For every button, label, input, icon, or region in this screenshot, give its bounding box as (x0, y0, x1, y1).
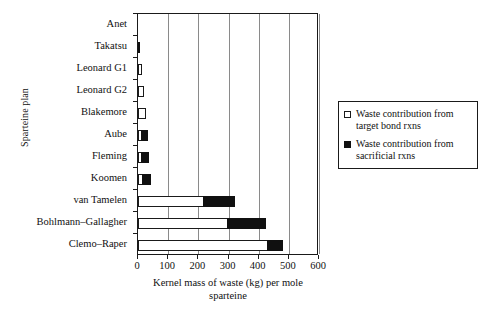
stacked-bar (138, 64, 142, 75)
x-axis-tick (258, 255, 259, 259)
x-axis-tick (167, 255, 168, 259)
bar-row (138, 174, 317, 185)
x-axis-tick (318, 255, 319, 259)
stacked-bar (138, 196, 235, 207)
x-axis-tick-label: 600 (298, 260, 338, 271)
bar-segment-target-bond (138, 64, 142, 75)
open-square-icon (344, 111, 351, 118)
x-axis-tick (288, 255, 289, 259)
stacked-bar (138, 240, 283, 251)
y-axis-tick-label: Aube (104, 129, 127, 140)
bar-segment-target-bond (138, 240, 267, 251)
x-axis-tick (137, 255, 138, 259)
plot-area (137, 13, 318, 255)
legend-label-target-bond: Waste contribution from target bond rxns (356, 108, 471, 132)
bar-row (138, 240, 317, 251)
bar-row (138, 64, 317, 75)
y-axis-tick-label: Leonard G1 (77, 63, 127, 74)
y-axis-tick-label: Leonard G2 (77, 85, 127, 96)
stacked-bar (138, 130, 148, 141)
y-axis-tick-label: Koomen (91, 173, 127, 184)
bar-segment-target-bond (138, 218, 227, 229)
x-axis-tick (197, 255, 198, 259)
legend-entry-sacrificial: Waste contribution from sacrificial rxns (344, 138, 471, 162)
stacked-bar (138, 174, 151, 185)
stacked-bar (138, 218, 266, 229)
bar-segment-sacrificial (141, 152, 149, 163)
bar-row (138, 20, 317, 31)
y-axis-tick-label: Fleming (92, 151, 127, 162)
y-axis-tick-label: Takatsu (94, 41, 127, 52)
legend-entry-target-bond: Waste contribution from target bond rxns (344, 108, 471, 132)
stacked-bar (138, 152, 149, 163)
y-axis-tick-label: van Tamelen (73, 195, 127, 206)
bar-row (138, 152, 317, 163)
x-axis-title-line2: sparteine (110, 289, 346, 302)
bar-row (138, 130, 317, 141)
y-axis-tick-label: Bohlmann–Gallagher (37, 217, 127, 228)
stacked-bar (138, 42, 140, 53)
bar-rows (138, 14, 317, 254)
bar-segment-target-bond (138, 86, 144, 97)
y-axis-tick-label: Blakemore (81, 107, 127, 118)
bar-row (138, 42, 317, 53)
bar-row (138, 196, 317, 207)
bar-row (138, 108, 317, 119)
legend-box: Waste contribution from target bond rxns… (338, 101, 478, 169)
stacked-bar (138, 108, 146, 119)
bar-segment-sacrificial (141, 130, 148, 141)
stacked-bar (138, 86, 144, 97)
bar-segment-target-bond (138, 196, 203, 207)
x-axis-title-line1: Kernel mass of waste (kg) per mole (110, 276, 346, 289)
bar-row (138, 86, 317, 97)
gridline (319, 14, 320, 254)
x-axis-tick (228, 255, 229, 259)
chart-figure: Sparteine plan AnetTakatsuLeonard G1Leon… (0, 0, 483, 313)
y-axis-category-labels: AnetTakatsuLeonard G1Leonard G2Blakemore… (0, 13, 133, 255)
y-axis-tick-label: Clemo–Raper (69, 239, 127, 250)
bar-segment-sacrificial (203, 196, 236, 207)
legend-label-sacrificial: Waste contribution from sacrificial rxns (356, 138, 471, 162)
bar-segment-sacrificial (227, 218, 266, 229)
bar-segment-sacrificial (138, 42, 140, 53)
bar-segment-sacrificial (142, 174, 151, 185)
bar-segment-target-bond (138, 108, 146, 119)
filled-square-icon (344, 141, 351, 148)
bar-segment-sacrificial (267, 240, 283, 251)
x-axis-title: Kernel mass of waste (kg) per mole spart… (110, 276, 346, 302)
bar-row (138, 218, 317, 229)
y-axis-tick-label: Anet (107, 19, 127, 30)
